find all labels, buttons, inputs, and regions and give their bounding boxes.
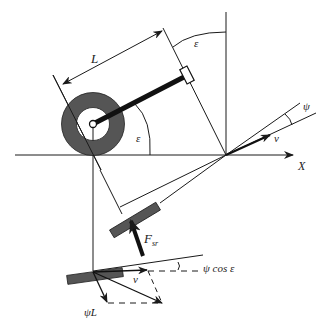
label-caster-angle-wheel: ε (136, 132, 141, 144)
slip-angle-arc (285, 114, 292, 125)
wheel-hub (90, 121, 97, 128)
tire-ray-1 (120, 155, 226, 207)
caster-angle-arc-top (173, 32, 226, 47)
caster-angle-arc-wheel (135, 104, 150, 155)
label-velocity-bottom: v (133, 273, 138, 285)
label-slip-angle: ψ (303, 100, 310, 112)
label-yaw-term: ψ̇L (84, 306, 97, 318)
label-projected-angle: ψ cos ε (203, 262, 235, 274)
tire-ray-2 (160, 155, 226, 203)
steering-diagram: L ε ε ψ v X Fsr ψ cos ε v ψ̇L (0, 0, 332, 330)
label-velocity-top: v (274, 132, 279, 144)
tire-heading-line-bottom (93, 255, 203, 271)
wheel-heading-line (226, 103, 300, 155)
tire-projection-line (100, 170, 122, 214)
length-dimension-arrow (63, 31, 162, 84)
label-length: L (90, 51, 98, 66)
label-x-axis: X (297, 159, 306, 173)
label-side-force: Fsr (143, 231, 159, 248)
velocity-arrow-top (226, 135, 270, 155)
label-caster-angle-top: ε (194, 37, 199, 49)
projected-angle-arc (178, 262, 180, 270)
resultant-velocity-arrow (93, 272, 162, 303)
side-force-arrow (131, 221, 143, 256)
kingpin-bearing (180, 66, 194, 84)
